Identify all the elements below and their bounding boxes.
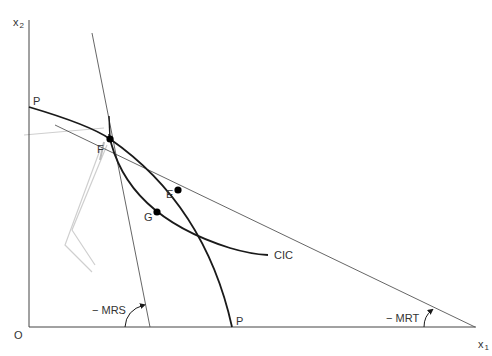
point-f-label: F <box>97 143 104 155</box>
point-g-label: G <box>144 211 153 223</box>
faint-sketch-marks <box>24 128 107 272</box>
mrs-line <box>92 33 150 327</box>
ppf-label-top: P <box>33 95 40 107</box>
cic-curve <box>109 134 268 255</box>
mrt-angle-arc <box>424 310 432 327</box>
origin-label: O <box>14 329 23 341</box>
mrt-line <box>55 125 475 327</box>
y-axis-label: x2 <box>13 16 25 30</box>
mrt-angle-label: − MRT <box>386 312 419 324</box>
mrs-angle-arc <box>125 305 144 327</box>
ppf-label-bottom: P <box>236 315 243 327</box>
point-f <box>106 135 113 142</box>
pareto-efficiency-diagram: x2 x1 O P P CIC F E G − MRS − MRT <box>0 0 492 356</box>
mrs-angle-label: − MRS <box>92 304 126 316</box>
cic-label: CIC <box>274 249 293 261</box>
x-axis-label: x1 <box>478 338 490 352</box>
point-e-label: E <box>166 188 173 200</box>
point-e <box>174 186 181 193</box>
point-g <box>153 208 160 215</box>
ppf-curve <box>29 107 232 327</box>
